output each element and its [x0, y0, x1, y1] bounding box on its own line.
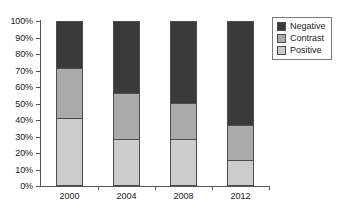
legend-item-label: Negative	[290, 22, 326, 31]
y-axis-tick-mark	[36, 153, 40, 154]
y-axis-tick-mark	[36, 170, 40, 171]
stacked-bar-chart: 0%10%20%30%40%50%60%70%80%90%100% Negati…	[0, 0, 338, 213]
y-axis-tick-label: 50%	[15, 99, 33, 108]
legend-item[interactable]: Negative	[277, 22, 326, 31]
bar-group	[170, 21, 197, 186]
bar-stack	[56, 21, 83, 186]
bar-stack	[113, 21, 140, 186]
y-axis-tick-label: 70%	[15, 66, 33, 75]
y-axis-tick-label: 20%	[15, 149, 33, 158]
bar-group	[227, 21, 254, 186]
y-axis-tick-label: 30%	[15, 132, 33, 141]
x-axis-tick-mark	[269, 186, 270, 190]
legend-item[interactable]: Positive	[277, 46, 326, 55]
legend-item-label: Contrast	[290, 34, 324, 43]
y-axis-tick-label: 80%	[15, 50, 33, 59]
bar-segment-contrast	[57, 69, 82, 118]
legend-swatch-icon	[277, 46, 286, 55]
bar-segment-negative	[171, 22, 196, 104]
bar-segment-contrast	[114, 94, 139, 140]
y-axis-tick-label: 100%	[10, 17, 33, 26]
bar-segment-positive	[114, 140, 139, 185]
bar-segment-positive	[171, 140, 196, 185]
y-axis-tick-label: 10%	[15, 165, 33, 174]
x-axis-tick-label: 2004	[116, 192, 136, 201]
legend-swatch-icon	[277, 22, 286, 31]
y-axis-tick-mark	[36, 38, 40, 39]
bar-stack	[227, 21, 254, 186]
bar-segment-contrast	[171, 104, 196, 141]
y-axis-tick-label: 40%	[15, 116, 33, 125]
legend-item-label: Positive	[290, 46, 322, 55]
y-axis-tick-mark	[36, 21, 40, 22]
x-axis-tick-mark	[155, 186, 156, 190]
x-axis-tick-mark	[212, 186, 213, 190]
y-axis-tick-mark	[36, 54, 40, 55]
bar-segment-negative	[57, 22, 82, 69]
bar-group	[113, 21, 140, 186]
bar-segment-contrast	[228, 126, 253, 161]
bar-segment-positive	[228, 161, 253, 185]
legend-swatch-icon	[277, 34, 286, 43]
y-axis-tick-mark	[36, 186, 40, 187]
y-axis: 0%10%20%30%40%50%60%70%80%90%100%	[0, 0, 36, 213]
bar-stack	[170, 21, 197, 186]
y-axis-tick-label: 90%	[15, 33, 33, 42]
y-axis-tick-label: 0%	[20, 182, 33, 191]
y-axis-tick-mark	[36, 87, 40, 88]
x-axis-tick-label: 2012	[230, 192, 250, 201]
y-axis-tick-mark	[36, 120, 40, 121]
y-axis-tick-mark	[36, 137, 40, 138]
x-axis-tick-label: 2000	[59, 192, 79, 201]
bar-segment-positive	[57, 119, 82, 185]
bar-group	[56, 21, 83, 186]
y-axis-tick-mark	[36, 104, 40, 105]
bar-segment-negative	[114, 22, 139, 94]
legend-item[interactable]: Contrast	[277, 34, 326, 43]
plot-area	[41, 21, 269, 186]
x-axis-tick-label: 2008	[173, 192, 193, 201]
bar-segment-negative	[228, 22, 253, 126]
chart-legend: NegativeContrastPositive	[272, 17, 332, 60]
x-axis-tick-mark	[98, 186, 99, 190]
y-axis-tick-label: 60%	[15, 83, 33, 92]
y-axis-tick-mark	[36, 71, 40, 72]
